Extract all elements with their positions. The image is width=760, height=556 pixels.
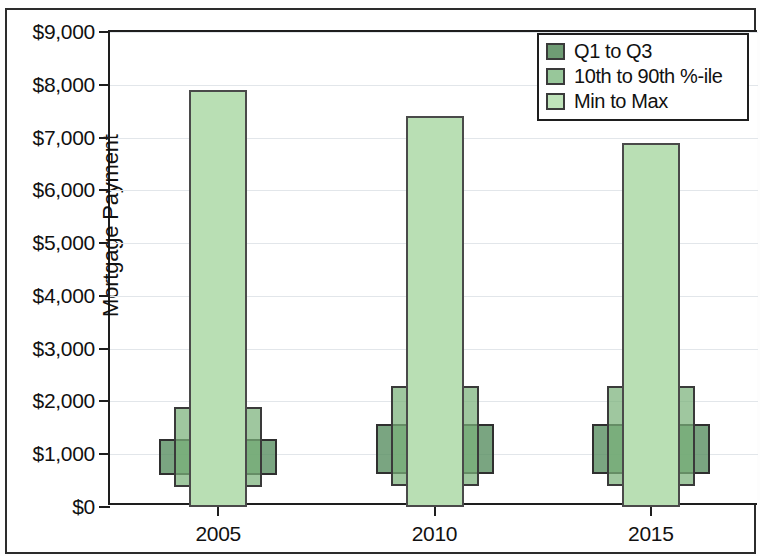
y-axis-tick — [99, 242, 110, 244]
y-axis-tick — [99, 84, 110, 86]
legend-label-decile: 10th to 90th %-ile — [574, 65, 722, 88]
x-axis-tick-label: 2010 — [412, 522, 458, 546]
y-axis-tick-label: $5,000 — [33, 231, 95, 255]
x-axis-tick-label: 2005 — [195, 522, 241, 546]
y-axis-tick-label: $1,000 — [33, 442, 95, 466]
legend-label-quartile: Q1 to Q3 — [574, 40, 652, 63]
y-axis-tick-label: $8,000 — [33, 73, 95, 97]
y-axis-tick-label: $9,000 — [33, 20, 95, 44]
y-axis-tick-label: $7,000 — [33, 126, 95, 150]
y-axis-tick-label: $0 — [72, 495, 95, 519]
y-axis-title: Mortgage Payment — [98, 134, 124, 317]
y-axis-tick — [99, 31, 110, 33]
y-axis-tick — [99, 189, 110, 191]
y-axis-tick — [99, 506, 110, 508]
y-axis-tick-label: $2,000 — [33, 389, 95, 413]
chart-figure: Mortgage Payment $0$1,000$2,000$3,000$4,… — [0, 0, 760, 556]
y-axis-tick — [99, 295, 110, 297]
chart-legend: Q1 to Q3 10th to 90th %-ile Min to Max — [537, 33, 749, 121]
x-axis-tick-label: 2015 — [628, 522, 674, 546]
y-axis-tick — [99, 348, 110, 350]
legend-swatch-quartile-icon — [546, 43, 565, 60]
y-axis-tick-label: $6,000 — [33, 178, 95, 202]
legend-swatch-decile-icon — [546, 68, 565, 85]
y-axis-tick-label: $4,000 — [33, 284, 95, 308]
chart-box-minmax-2005 — [189, 90, 247, 507]
chart-box-minmax-2010 — [406, 116, 464, 507]
legend-item-min-to-max[interactable]: Min to Max — [546, 89, 741, 114]
legend-item-q1-to-q3[interactable]: Q1 to Q3 — [546, 39, 741, 64]
y-axis-tick — [99, 400, 110, 402]
legend-swatch-minmax-icon — [546, 93, 565, 110]
chart-box-minmax-2015 — [622, 143, 680, 507]
y-axis-tick-label: $3,000 — [33, 337, 95, 361]
legend-item-10th-to-90th[interactable]: 10th to 90th %-ile — [546, 64, 741, 89]
legend-label-minmax: Min to Max — [574, 90, 668, 113]
y-axis-tick — [99, 137, 110, 139]
y-axis-tick — [99, 453, 110, 455]
